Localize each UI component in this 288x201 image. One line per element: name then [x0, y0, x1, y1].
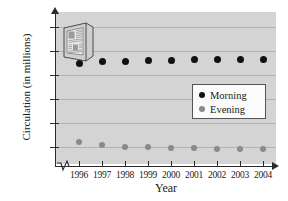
- legend-label-morning: Morning: [210, 90, 247, 101]
- x-tick-1997: [102, 161, 103, 167]
- x-tick-2000: [171, 161, 172, 167]
- legend-marker-morning-icon: [199, 92, 205, 98]
- data-point-morning-2000: [168, 57, 175, 64]
- y-tick-60: [50, 27, 59, 28]
- x-tick-2003: [240, 161, 241, 167]
- x-tick-1999: [148, 161, 149, 167]
- gridline-40: [56, 75, 276, 76]
- data-point-morning-2001: [191, 56, 198, 63]
- x-axis-arrow: [272, 162, 279, 170]
- legend-item-evening: Evening: [199, 102, 265, 116]
- x-tick-2001: [194, 161, 195, 167]
- data-point-morning-2003: [237, 56, 244, 63]
- gridline-20: [56, 123, 276, 124]
- x-axis-break-icon: [57, 158, 73, 170]
- y-tick-40: [50, 75, 59, 76]
- data-point-morning-1998: [122, 58, 129, 65]
- y-tick-10: [50, 147, 59, 148]
- y-tick-50: [50, 51, 59, 52]
- data-point-evening-1998: [122, 144, 128, 150]
- x-tick-2002: [217, 161, 218, 167]
- data-point-evening-1997: [99, 142, 105, 148]
- x-tick-label-2004: 2004: [246, 170, 280, 180]
- x-tick-2004: [263, 161, 264, 167]
- circulation-scatter-chart: 60 50 40 30 20 10 1996 1997 1998 1999 20…: [0, 0, 288, 201]
- data-point-morning-2002: [214, 56, 221, 63]
- legend-marker-evening-icon: [199, 106, 205, 112]
- y-axis-line: [55, 12, 56, 167]
- data-point-morning-1997: [99, 58, 106, 65]
- x-axis-title: Year: [56, 182, 276, 195]
- y-tick-20: [50, 123, 59, 124]
- y-axis-arrow: [51, 7, 59, 14]
- legend-item-morning: Morning: [199, 88, 265, 102]
- newspaper-icon: [60, 20, 98, 64]
- data-point-morning-1999: [145, 57, 152, 64]
- y-tick-30: [50, 99, 59, 100]
- x-tick-1996: [79, 161, 80, 167]
- data-point-morning-2004: [260, 56, 267, 63]
- gridline-10: [56, 147, 276, 148]
- legend-label-evening: Evening: [210, 104, 245, 115]
- data-point-evening-1999: [145, 144, 151, 150]
- x-tick-1998: [125, 161, 126, 167]
- data-point-morning-1996: [76, 60, 83, 67]
- legend: Morning Evening: [192, 84, 266, 119]
- y-axis-title: Circulation (in millions): [20, 12, 32, 162]
